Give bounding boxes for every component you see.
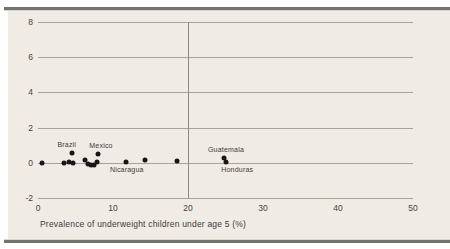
y-tick-label-4: 4 [28,87,33,97]
point-label-nicaragua: Nicaragua [110,166,144,173]
data-point [94,160,99,165]
bottom-horizontal-rule [4,240,450,243]
gridline-y-2 [38,128,413,129]
scanned-chart-figure: 86420-2 01020304050 BrazilMexicoNicaragu… [0,0,450,249]
x-tick-label-40: 40 [333,203,342,213]
data-point-honduras [224,159,229,164]
data-point-nicaragua [123,160,128,165]
y-tick-label-8: 8 [28,17,33,27]
x-tick-label-30: 30 [258,203,267,213]
x-tick-label-10: 10 [108,203,117,213]
gridline-y--2 [38,198,413,199]
point-label-honduras: Honduras [221,166,253,173]
scatter-plot: 86420-2 01020304050 BrazilMexicoNicaragu… [0,0,450,249]
x-axis-title: Prevalence of underweight children under… [40,219,246,229]
y-tick-label-6: 6 [28,52,33,62]
x-tick-label-0: 0 [36,203,41,213]
y-tick-label--2: -2 [25,193,33,203]
y-tick-label-0: 0 [28,158,33,168]
point-label-guatemala: Guatemala [208,146,244,153]
data-point [70,161,75,166]
data-point-mexico [96,151,101,156]
gridline-y-8 [38,22,413,23]
point-label-mexico: Mexico [89,142,112,149]
point-label-brazil: Brazil [57,141,76,148]
data-point-brazil [69,151,74,156]
x-tick-label-20: 20 [183,203,192,213]
data-point [174,159,179,164]
y-tick-label-2: 2 [28,123,33,133]
data-point [39,160,44,165]
gridline-y-4 [38,92,413,93]
x-tick-label-50: 50 [408,203,417,213]
reference-line-x-20 [188,22,189,198]
data-point [142,158,147,163]
gridline-y-6 [38,57,413,58]
